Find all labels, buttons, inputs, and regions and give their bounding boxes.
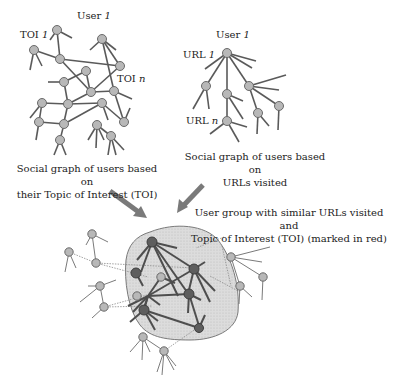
url-first-label: URL 1 <box>183 49 215 61</box>
merged-node <box>157 273 165 281</box>
toi-user-label: User 1 <box>77 10 111 22</box>
url-caption-line1: Social graph of users based on <box>180 150 330 176</box>
toi-node <box>87 88 96 97</box>
highlighted-node <box>195 324 204 333</box>
toi-node <box>56 136 65 145</box>
url-node <box>254 109 263 118</box>
merged-node <box>65 248 73 256</box>
merged-caption-line2: Topic of Interest (TOI) (marked in red) <box>184 232 394 245</box>
highlighted-node <box>139 305 149 315</box>
toi-node <box>110 87 119 96</box>
merged-node <box>100 303 108 311</box>
url-node <box>223 90 232 99</box>
merged-node <box>259 273 267 281</box>
url-node <box>202 82 211 91</box>
highlighted-node <box>131 268 141 278</box>
url-caption-line2: URLs visited <box>180 176 330 189</box>
url-node <box>223 49 232 58</box>
merged-caption-line1: User group with similar URLs visited and <box>184 206 394 232</box>
toi-node <box>53 26 62 35</box>
toi-node <box>82 67 91 76</box>
merged-node <box>139 333 147 341</box>
url-graph <box>193 49 286 143</box>
toi-caption-line2: their Topic of Interest (TOI) <box>12 188 162 201</box>
toi-node <box>107 132 116 141</box>
toi-node <box>98 99 107 108</box>
highlighted-node <box>147 237 157 247</box>
url-user-label: User 1 <box>216 29 250 41</box>
toi-node <box>35 118 44 127</box>
url-last-label: URL n <box>186 115 218 127</box>
merged-node <box>96 282 104 290</box>
highlighted-node <box>184 289 194 299</box>
merged-node <box>236 282 244 290</box>
toi-node <box>30 46 39 55</box>
toi-node <box>120 118 129 127</box>
url-graph-caption: Social graph of users based on URLs visi… <box>180 150 330 189</box>
merged-node <box>227 253 235 261</box>
toi-graph <box>30 26 133 156</box>
merged-graph-caption: User group with similar URLs visited and… <box>184 206 394 245</box>
url-node <box>245 82 254 91</box>
toi-node <box>56 55 65 64</box>
toi-node <box>98 35 107 44</box>
toi-node <box>116 62 125 71</box>
merged-node <box>160 347 168 355</box>
toi-first-label: TOI 1 <box>20 29 48 41</box>
toi-last-label: TOI n <box>117 73 145 85</box>
toi-graph-caption: Social graph of users based on their Top… <box>12 162 162 201</box>
merged-node <box>133 292 141 300</box>
merged-node <box>88 230 96 238</box>
toi-node <box>64 100 73 109</box>
highlighted-node <box>189 264 199 274</box>
toi-caption-line1: Social graph of users based on <box>12 162 162 188</box>
toi-node <box>38 99 47 108</box>
toi-node <box>93 121 102 130</box>
merged-graph <box>65 226 270 375</box>
toi-node <box>60 78 69 87</box>
toi-node <box>60 120 69 129</box>
url-node <box>223 117 232 126</box>
url-node <box>275 102 284 111</box>
merged-node <box>92 259 100 267</box>
